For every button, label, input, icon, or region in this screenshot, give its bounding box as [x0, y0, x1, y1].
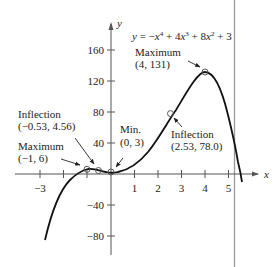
x-axis-arrow-icon	[252, 172, 259, 177]
annotation-max-left: Maximum (−1, 6)	[18, 140, 64, 165]
annotation-title: Maximum	[135, 46, 181, 58]
y-axis-arrow-icon	[109, 22, 114, 30]
x-axis-label: x	[263, 168, 269, 180]
y-tick-labels: 160 120 80 40 −40 −80	[87, 44, 105, 242]
annotation-coords: (4, 131)	[135, 58, 170, 71]
annotation-max-right: Maximum (4, 131)	[135, 46, 181, 71]
y-tick-label: −80	[87, 230, 105, 242]
function-graph: −3 1 2 3 4 5 160 120 80 40 −40 −80 x y y…	[0, 0, 277, 267]
y-tick-label: 40	[93, 137, 105, 149]
annotation-inflection-right: Inflection (2.53, 78.0)	[171, 128, 223, 153]
annotation-coords: (−0.53, 4.56)	[18, 120, 76, 133]
annotation-coords: (−1, 6)	[18, 152, 48, 165]
annotation-min: Min. (0, 3)	[120, 123, 144, 149]
y-tick-label: 120	[88, 75, 105, 87]
x-tick-label: 4	[202, 182, 208, 194]
x-tick-label: 2	[155, 182, 161, 194]
annotation-inflection-left: Inflection (−0.53, 4.56)	[18, 108, 76, 133]
function-equation: y = −x4 + 4x3 + 8x2 + 3	[131, 30, 232, 42]
y-tick-label: −40	[87, 199, 105, 211]
x-tick-label: 3	[179, 182, 185, 194]
annotation-coords: (2.53, 78.0)	[171, 140, 223, 153]
annotation-coords: (0, 3)	[120, 136, 144, 149]
annotation-title: Inflection	[171, 128, 214, 140]
annotation-title: Maximum	[18, 140, 64, 152]
x-tick-label: 1	[132, 182, 138, 194]
y-tick-label: 160	[88, 44, 105, 56]
annotation-title: Min.	[120, 123, 141, 135]
function-curve	[45, 72, 242, 240]
annotation-title: Inflection	[18, 108, 61, 120]
x-tick-label: 5	[226, 182, 232, 194]
x-tick-label: −3	[34, 182, 46, 194]
y-tick-label: 80	[93, 106, 105, 118]
y-axis-label: y	[116, 17, 122, 29]
